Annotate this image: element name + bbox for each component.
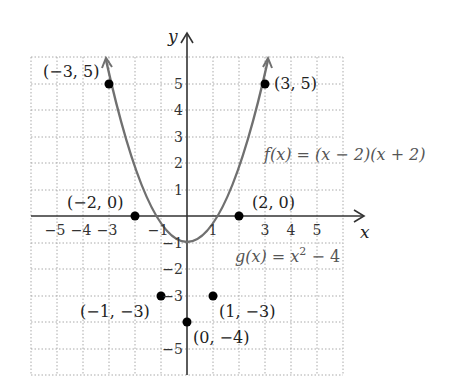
- svg-text:−5: −5: [45, 222, 66, 238]
- svg-text:(0, −4): (0, −4): [193, 328, 249, 347]
- point-1-neg3: [209, 292, 218, 301]
- point-neg2-0: [131, 212, 140, 221]
- svg-text:(2, 0): (2, 0): [252, 193, 295, 212]
- g-function-label: g(x) = x2 − 4: [235, 245, 340, 266]
- svg-text:(−2, 0): (−2, 0): [67, 193, 123, 212]
- svg-text:2: 2: [174, 155, 183, 171]
- svg-text:3: 3: [174, 129, 183, 145]
- svg-text:1: 1: [209, 222, 218, 238]
- svg-text:5: 5: [313, 222, 322, 238]
- svg-text:(−1, −3): (−1, −3): [80, 302, 150, 321]
- svg-text:−5: −5: [162, 341, 183, 357]
- svg-text:4: 4: [287, 222, 296, 238]
- y-axis-label: y: [167, 26, 178, 46]
- f-function-label: f(x) = (x − 2)(x + 2): [263, 145, 426, 164]
- svg-text:1: 1: [174, 182, 183, 198]
- point-neg3-5: [105, 80, 114, 89]
- point-3-5: [261, 80, 270, 89]
- svg-text:(3, 5): (3, 5): [274, 74, 317, 93]
- point-0-neg4: [183, 318, 192, 327]
- svg-text:(−3, 5): (−3, 5): [43, 62, 99, 81]
- svg-text:−2: −2: [162, 261, 183, 277]
- svg-text:−3: −3: [97, 222, 118, 238]
- svg-text:−4: −4: [71, 222, 92, 238]
- x-axis-label: x: [360, 222, 370, 242]
- point-2-0: [235, 212, 244, 221]
- svg-text:5: 5: [174, 76, 183, 92]
- svg-text:3: 3: [261, 222, 270, 238]
- svg-text:4: 4: [174, 102, 183, 118]
- x-tick-labels: −5 −4 −3 −1 1 3 4 5: [45, 222, 322, 238]
- svg-text:−1: −1: [162, 235, 183, 251]
- graph: −5 −4 −3 −1 1 3 4 5 5 4 3 2 1 −1 −2 −3 −…: [0, 0, 470, 389]
- svg-text:(1, −3): (1, −3): [219, 302, 275, 321]
- svg-text:−3: −3: [162, 288, 183, 304]
